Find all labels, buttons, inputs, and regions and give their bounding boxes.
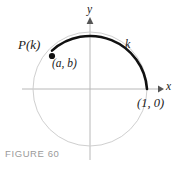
- label-arc-k: k: [125, 38, 130, 50]
- label-y-axis: y: [87, 4, 92, 16]
- unit-circle-diagram: [0, 0, 177, 170]
- label-x-axis: x: [166, 81, 171, 93]
- label-coordinates-ab: (a, b): [52, 58, 77, 70]
- label-point-one-zero: (1, 0): [137, 97, 164, 110]
- figure-caption: FIGURE 60: [5, 149, 60, 159]
- label-point-pk: P(k): [18, 38, 40, 51]
- x-axis-arrowhead: [158, 86, 164, 93]
- figure-60-container: P(k) (a, b) k x y (1, 0) FIGURE 60: [0, 0, 177, 170]
- y-axis-arrowhead: [87, 17, 94, 24]
